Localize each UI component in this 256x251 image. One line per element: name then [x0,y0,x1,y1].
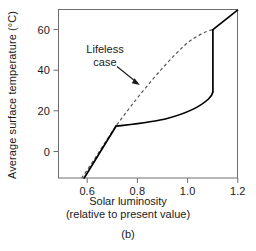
x-axis-title-line1: Solar luminosity [89,195,167,207]
y-axis-ticks [54,30,59,152]
y-tick-label-40: 40 [26,64,50,76]
annotation-lifeless-case: Lifeless case [86,43,123,69]
x-axis-ticks [87,178,238,183]
x-axis-title-line2: (relative to present value) [0,208,256,221]
annotation-arrow [117,67,140,86]
annotation-line1: Lifeless [86,43,123,56]
figure-panel-b: 60 40 20 0 0.6 0.8 1.0 1.2 Average surfa… [0,0,256,251]
series-regulated-plateau-branch [116,92,213,126]
y-axis-title: Average surface temperature (°C) [6,11,18,179]
plot-frame [59,10,238,179]
annotation-line2: case [86,56,123,69]
panel-caption: (b) [0,228,256,240]
x-axis-title: Solar luminosity (relative to present va… [0,195,256,221]
series-regulated-rising-branch [84,126,116,178]
series-regulated-post-jump [213,10,238,30]
y-tick-label-0: 0 [26,146,50,158]
y-tick-label-20: 20 [26,105,50,117]
y-tick-label-60: 60 [26,24,50,36]
